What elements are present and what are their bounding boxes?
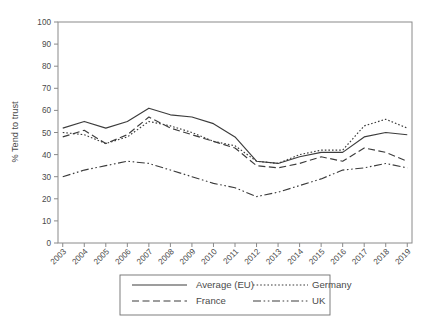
- x-tick-label: 2005: [92, 247, 112, 267]
- y-tick-label: 90: [42, 40, 52, 49]
- y-tick-label: 50: [42, 129, 52, 138]
- y-tick-label: 70: [42, 84, 52, 93]
- x-tick-label: 2012: [243, 247, 263, 267]
- x-tick-label: 2008: [157, 247, 177, 267]
- chart-legend: Average (EU)GermanyFranceUK: [120, 275, 352, 315]
- x-tick-label: 2007: [135, 247, 155, 267]
- x-tick-label: 2010: [200, 247, 220, 267]
- x-tick-label: 2014: [286, 247, 306, 267]
- x-tick-label: 2015: [307, 247, 327, 267]
- y-axis-label: % Tend to trust: [10, 101, 20, 163]
- clipped-caption: [44, 0, 244, 6]
- y-tick-label: 80: [42, 62, 52, 71]
- x-axis: 2003200420052006200720082009201020112012…: [49, 243, 413, 266]
- legend-label-uk: UK: [312, 295, 326, 306]
- x-tick-label: 2006: [114, 247, 134, 267]
- y-tick-label: 40: [42, 151, 52, 160]
- chart-figure: 0102030405060708090100 % Tend to trust 2…: [0, 0, 436, 325]
- y-tick-label: 100: [37, 18, 51, 27]
- y-axis: 0102030405060708090100 % Tend to trust: [10, 18, 58, 248]
- y-tick-label: 0: [46, 239, 51, 248]
- line-chart-svg: 0102030405060708090100 % Tend to trust 2…: [0, 0, 436, 325]
- legend-label-france: France: [196, 295, 226, 306]
- x-tick-label: 2018: [372, 247, 392, 267]
- x-tick-label: 2013: [264, 247, 284, 267]
- x-tick-label: 2016: [329, 247, 349, 267]
- y-tick-label: 60: [42, 106, 52, 115]
- plot-frame: [58, 22, 412, 243]
- legend-label-germany: Germany: [312, 279, 352, 290]
- y-tick-label: 30: [42, 173, 52, 182]
- series-layer: [63, 108, 408, 196]
- y-tick-label: 10: [42, 217, 52, 226]
- x-tick-label: 2011: [222, 247, 241, 266]
- x-tick-label: 2017: [350, 247, 370, 267]
- x-tick-label: 2009: [178, 247, 198, 267]
- x-tick-label: 2019: [393, 247, 413, 267]
- y-tick-label: 20: [42, 195, 52, 204]
- legend-label-average-eu: Average (EU): [196, 279, 254, 290]
- x-tick-label: 2004: [70, 247, 90, 267]
- series-line-uk: [63, 161, 408, 196]
- x-tick-label: 2003: [49, 247, 69, 267]
